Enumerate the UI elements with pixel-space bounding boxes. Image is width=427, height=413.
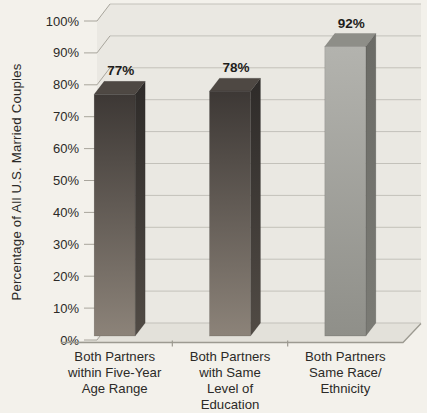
bar-side-face bbox=[366, 34, 376, 336]
bar-front-face bbox=[94, 94, 135, 336]
bar-column bbox=[325, 34, 376, 336]
category-label: Both Partnerswithin Five-YearAge Range bbox=[67, 349, 162, 396]
y-axis-title: Percentage of All U.S. Married Couples bbox=[9, 22, 25, 342]
y-tick-label: 90% bbox=[53, 45, 79, 60]
bar-front-face bbox=[210, 91, 251, 336]
y-tick-label: 60% bbox=[53, 141, 79, 156]
y-tick-label: 30% bbox=[53, 237, 79, 252]
bar-value-label: 77% bbox=[107, 63, 134, 78]
y-tick-label: 70% bbox=[53, 109, 79, 124]
y-tick-label: 100% bbox=[46, 14, 80, 29]
bar-column bbox=[210, 78, 261, 336]
y-tick-label: 10% bbox=[53, 301, 79, 316]
bar-side-face bbox=[135, 81, 145, 336]
y-axis-labels: 0%10%20%30%40%50%60%70%80%90%100% bbox=[46, 14, 80, 348]
category-label: Both PartnersSame Race/Ethnicity bbox=[305, 349, 386, 396]
y-tick-label: 0% bbox=[60, 333, 79, 348]
y-tick-label: 80% bbox=[53, 77, 79, 92]
y-tick-label: 50% bbox=[53, 173, 79, 188]
bar-front-face bbox=[325, 47, 366, 336]
category-label: Both Partnerswith SameLevel ofEducation bbox=[190, 349, 271, 412]
y-tick-label: 20% bbox=[53, 269, 79, 284]
bar-chart-svg: 0%10%20%30%40%50%60%70%80%90%100%77%78%9… bbox=[0, 0, 427, 413]
bar-side-face bbox=[251, 78, 261, 336]
bar-column bbox=[94, 81, 145, 336]
y-tick-label: 40% bbox=[53, 205, 79, 220]
bar-value-label: 92% bbox=[338, 16, 365, 31]
chart-figure: 0%10%20%30%40%50%60%70%80%90%100%77%78%9… bbox=[0, 0, 427, 413]
bar-value-label: 78% bbox=[222, 60, 249, 75]
